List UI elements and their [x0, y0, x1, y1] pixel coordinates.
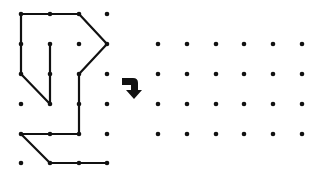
dot-grid-diagram [0, 0, 325, 171]
left-grid-dot [105, 161, 110, 166]
right-grid-dot [185, 72, 190, 77]
left-grid-dot [77, 161, 82, 166]
right-grid-dot [185, 42, 190, 47]
left-grid-dot [105, 42, 110, 47]
left-dot-grid [19, 12, 110, 166]
right-grid-dot [242, 42, 247, 47]
left-grid-dot [19, 132, 24, 137]
right-grid-dot [271, 132, 276, 137]
left-grid-dot [48, 161, 53, 166]
left-grid-dot [19, 102, 24, 107]
right-dot-grid [156, 42, 305, 137]
left-grid-dot [48, 102, 53, 107]
right-grid-dot [214, 102, 219, 107]
left-grid-dot [105, 132, 110, 137]
left-grid-dot [19, 72, 24, 77]
left-grid-dot [77, 12, 82, 17]
right-grid-dot [156, 72, 161, 77]
right-grid-dot [214, 132, 219, 137]
right-grid-dot [156, 132, 161, 137]
right-grid-dot [300, 132, 305, 137]
left-grid-dot [19, 12, 24, 17]
right-grid-dot [185, 102, 190, 107]
left-grid-dot [105, 72, 110, 77]
right-grid-dot [300, 42, 305, 47]
right-grid-dot [156, 42, 161, 47]
left-grid-dot [105, 102, 110, 107]
left-grid-dot [77, 72, 82, 77]
right-grid-dot [214, 42, 219, 47]
left-grid-dot [19, 161, 24, 166]
figure-outline [21, 14, 107, 163]
left-grid-dot [77, 102, 82, 107]
left-grid-dot [48, 12, 53, 17]
right-grid-dot [242, 102, 247, 107]
right-grid-dot [271, 102, 276, 107]
left-grid-dot [48, 72, 53, 77]
right-grid-dot [242, 72, 247, 77]
right-grid-dot [271, 72, 276, 77]
figure-segment [21, 14, 50, 104]
left-grid-dot [19, 42, 24, 47]
left-grid-dot [77, 42, 82, 47]
left-grid-dot [77, 132, 82, 137]
right-grid-dot [271, 42, 276, 47]
right-grid-dot [214, 72, 219, 77]
left-grid-dot [48, 42, 53, 47]
bent-down-arrow-icon [122, 78, 142, 99]
right-grid-dot [242, 132, 247, 137]
left-grid-dot [105, 12, 110, 17]
left-grid-dot [48, 132, 53, 137]
right-grid-dot [300, 72, 305, 77]
right-grid-dot [300, 102, 305, 107]
right-grid-dot [185, 132, 190, 137]
right-grid-dot [156, 102, 161, 107]
